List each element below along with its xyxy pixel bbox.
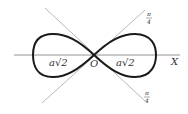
origin-label: O (90, 58, 98, 69)
right-width-label: a√2 (116, 57, 135, 68)
angle-bottom-num: π (144, 89, 150, 96)
angle-top-num: π (146, 10, 152, 17)
lemniscate-curve (33, 34, 156, 77)
x-axis-label: X (170, 56, 179, 67)
angle-top-den: 4 (146, 18, 151, 25)
angle-bottom-den: 4 (144, 97, 149, 104)
lemniscate-diagram: a√2 O a√2 X π 4 π 4 (0, 0, 188, 114)
left-width-label: a√2 (49, 57, 68, 68)
